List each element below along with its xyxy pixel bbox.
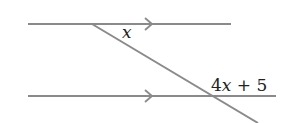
transversal-line	[92, 24, 258, 123]
parallel-lines-diagram: x 4x + 5	[0, 0, 301, 123]
angle-label-4x-plus-5: 4x + 5	[211, 75, 267, 95]
angle-label-x: x	[122, 22, 132, 42]
